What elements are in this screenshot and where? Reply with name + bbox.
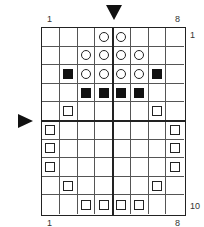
circle-symbol-icon — [134, 69, 144, 79]
grid-cell — [95, 177, 113, 196]
grid-cell — [95, 102, 113, 121]
grid-cell — [60, 47, 78, 66]
circle-symbol-icon — [81, 50, 91, 60]
open-square-symbol-icon — [45, 162, 55, 172]
grid-cell — [95, 195, 113, 214]
grid-cell — [131, 121, 149, 140]
grid-cell — [166, 102, 184, 121]
grid-cell — [95, 140, 113, 159]
grid-cell — [78, 158, 96, 177]
bottom-right-column-number: 8 — [175, 219, 180, 227]
grid-cell — [95, 158, 113, 177]
circle-symbol-icon — [99, 69, 109, 79]
grid-cell — [149, 84, 167, 103]
grid-cell — [42, 121, 60, 140]
grid-cell — [78, 140, 96, 159]
grid-cell — [131, 84, 149, 103]
filled-square-symbol-icon — [116, 88, 126, 98]
grid-cell — [60, 121, 78, 140]
grid-cell — [78, 195, 96, 214]
grid-cell — [113, 102, 131, 121]
center-horizontal-divider — [42, 120, 185, 122]
grid-cell — [166, 121, 184, 140]
grid-cell — [78, 47, 96, 66]
grid-cell — [95, 47, 113, 66]
grid-cell — [149, 195, 167, 214]
grid-cell — [95, 65, 113, 84]
open-square-symbol-icon — [170, 162, 180, 172]
row-marker-arrow-icon — [18, 114, 33, 128]
grid-cell — [131, 177, 149, 196]
grid-cell — [95, 28, 113, 47]
grid-cell — [166, 84, 184, 103]
grid-cell — [149, 140, 167, 159]
grid-cell — [149, 65, 167, 84]
filled-square-symbol-icon — [63, 69, 73, 79]
grid-cell — [60, 65, 78, 84]
right-top-row-number: 1 — [190, 31, 195, 40]
grid-cell — [149, 158, 167, 177]
grid-cell — [166, 47, 184, 66]
grid-cell — [166, 195, 184, 214]
grid-cell — [78, 84, 96, 103]
grid-cell — [113, 158, 131, 177]
circle-symbol-icon — [116, 69, 126, 79]
grid-cell — [42, 65, 60, 84]
circle-symbol-icon — [99, 50, 109, 60]
filled-square-symbol-icon — [81, 88, 91, 98]
grid-cell — [149, 121, 167, 140]
grid-cell — [149, 28, 167, 47]
column-marker-arrow-icon — [106, 5, 122, 20]
grid-cell — [166, 177, 184, 196]
grid-cell — [113, 177, 131, 196]
grid-cell — [166, 140, 184, 159]
filled-square-symbol-icon — [152, 69, 162, 79]
grid-cell — [42, 28, 60, 47]
open-square-symbol-icon — [152, 106, 162, 116]
grid-cell — [60, 102, 78, 121]
grid-cell — [113, 140, 131, 159]
grid-cell — [42, 177, 60, 196]
circle-symbol-icon — [134, 50, 144, 60]
top-right-column-number: 8 — [175, 15, 180, 24]
right-bottom-row-number: 10 — [190, 202, 200, 211]
open-square-symbol-icon — [134, 200, 144, 210]
grid-cell — [60, 195, 78, 214]
grid-cell — [42, 195, 60, 214]
open-square-symbol-icon — [116, 200, 126, 210]
grid-cell — [113, 195, 131, 214]
filled-square-symbol-icon — [99, 88, 109, 98]
circle-symbol-icon — [99, 32, 109, 42]
grid-cell — [166, 65, 184, 84]
circle-symbol-icon — [81, 69, 91, 79]
open-square-symbol-icon — [99, 200, 109, 210]
grid-cell — [78, 28, 96, 47]
grid-cell — [78, 65, 96, 84]
grid-cell — [42, 140, 60, 159]
bottom-left-column-number: 1 — [47, 219, 52, 227]
grid-cell — [78, 121, 96, 140]
grid-cell — [42, 102, 60, 121]
grid-cell — [131, 158, 149, 177]
grid-cell — [166, 158, 184, 177]
grid-cell — [131, 140, 149, 159]
grid-cell — [131, 47, 149, 66]
grid-cell — [113, 84, 131, 103]
grid-cell — [113, 28, 131, 47]
grid-cell — [131, 195, 149, 214]
open-square-symbol-icon — [45, 143, 55, 153]
grid-cell — [42, 158, 60, 177]
open-square-symbol-icon — [152, 181, 162, 191]
grid-cell — [60, 140, 78, 159]
grid-cell — [78, 102, 96, 121]
grid-cell — [60, 177, 78, 196]
grid-cell — [60, 28, 78, 47]
grid-cell — [149, 102, 167, 121]
grid-cell — [78, 177, 96, 196]
grid-cell — [42, 84, 60, 103]
open-square-symbol-icon — [170, 125, 180, 135]
grid-cell — [113, 47, 131, 66]
open-square-symbol-icon — [45, 125, 55, 135]
grid-cell — [131, 28, 149, 47]
grid-cell — [131, 65, 149, 84]
